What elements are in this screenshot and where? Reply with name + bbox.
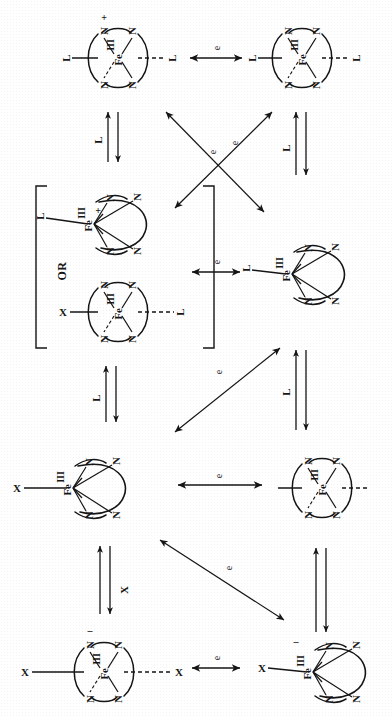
- donor-n: N: [131, 193, 143, 201]
- oxidation-state: III: [55, 471, 66, 483]
- donor-n: N: [98, 281, 110, 289]
- arrow-label-ligand-l: L: [92, 136, 104, 143]
- donor-n: N: [83, 511, 95, 519]
- donor-n: N: [350, 641, 362, 649]
- donor-n: N: [104, 247, 116, 255]
- axial-ligand-l: L: [240, 264, 252, 271]
- arrow-label-electron: e: [211, 260, 222, 264]
- species-s4: [252, 246, 344, 305]
- oxidation-state: III: [105, 293, 116, 305]
- donor-n: N: [310, 27, 322, 35]
- axial-ligand-x: X: [21, 666, 29, 678]
- metal-center: Fe: [112, 54, 124, 65]
- donor-n: N: [83, 458, 95, 466]
- arrow-a2: [108, 112, 118, 162]
- donor-n: N: [302, 511, 314, 519]
- arrow-label-electron: e: [229, 141, 240, 145]
- species-s8: [268, 644, 365, 703]
- oxidation-state: III: [274, 257, 285, 269]
- metal-center: Fe: [82, 220, 94, 231]
- reaction-scheme-figure: [0, 0, 392, 716]
- oxidation-state: III: [105, 39, 116, 51]
- donor-n: N: [104, 194, 116, 202]
- donor-n: N: [112, 641, 124, 649]
- donor-n: N: [84, 641, 96, 649]
- donor-n: N: [282, 27, 294, 35]
- donor-n: N: [302, 457, 314, 465]
- donor-n: N: [112, 695, 124, 703]
- oxidation-state: III: [295, 655, 306, 667]
- arrow-label-electron: e: [213, 474, 224, 478]
- donor-n: N: [98, 27, 110, 35]
- donor-n: N: [350, 695, 362, 703]
- donor-n: N: [329, 297, 341, 305]
- axial-ligand-l: L: [246, 54, 258, 61]
- donor-n: N: [84, 695, 96, 703]
- charge-s8: –: [294, 636, 299, 647]
- donor-n: N: [329, 243, 341, 251]
- donor-n: N: [323, 695, 335, 703]
- axial-ligand-l: L: [166, 54, 178, 61]
- arrow-label-ligand-x: X: [118, 586, 130, 594]
- charge-s7: –: [88, 625, 93, 636]
- metal-center: Fe: [98, 668, 110, 679]
- charge-s3a: +: [95, 205, 101, 216]
- donor-n: N: [330, 511, 342, 519]
- donor-n: N: [302, 244, 314, 252]
- arrow-label-electron: e: [213, 370, 224, 374]
- arrow-label-ligand-l: L: [90, 394, 102, 401]
- arrow-a4: [175, 112, 272, 208]
- donor-n: N: [126, 81, 138, 89]
- arrow-a12: [316, 548, 326, 632]
- donor-n: N: [282, 81, 294, 89]
- arrow-a3: [296, 112, 306, 175]
- metal-center: Fe: [296, 54, 308, 65]
- metal-center: Fe: [316, 484, 328, 495]
- axial-ligand-x: X: [258, 662, 266, 674]
- donor-n: N: [126, 335, 138, 343]
- arrow-a8: [296, 350, 306, 430]
- oxidation-state: III: [309, 469, 320, 481]
- charge-s1: +: [101, 12, 107, 23]
- donor-n: N: [323, 642, 335, 650]
- species-s5: [24, 460, 125, 519]
- axial-ligand-l: L: [34, 212, 46, 219]
- donor-n: N: [126, 27, 138, 35]
- oxidation-state: III: [289, 39, 300, 51]
- arrow-a11: [100, 546, 110, 614]
- donor-n: N: [302, 297, 314, 305]
- donor-n: N: [126, 281, 138, 289]
- axial-ligand-l: L: [174, 308, 186, 315]
- arrow-a5: [166, 112, 264, 212]
- axial-ligand-x: X: [13, 482, 21, 494]
- axial-ligand-x: X: [175, 666, 183, 678]
- donor-n: N: [131, 247, 143, 255]
- oxidation-state: III: [76, 207, 87, 219]
- donor-n: N: [110, 511, 122, 519]
- axial-ligand-l: L: [60, 54, 72, 61]
- arrow-label-ligand-l: L: [280, 388, 292, 395]
- metal-center: Fe: [301, 668, 313, 679]
- arrow-label-electron: e: [223, 566, 234, 570]
- metal-center: Fe: [61, 484, 73, 495]
- arrow-a9: [175, 348, 280, 432]
- donor-n: N: [110, 457, 122, 465]
- arrow-label-electron: e: [207, 150, 218, 154]
- or-label: OR: [55, 262, 70, 281]
- axial-ligand-l: L: [350, 54, 362, 61]
- donor-n: N: [310, 81, 322, 89]
- arrow-label-ligand-l: L: [280, 144, 292, 151]
- donor-n: N: [98, 335, 110, 343]
- donor-n: N: [98, 81, 110, 89]
- axial-ligand-x: X: [59, 306, 67, 318]
- arrow-a13: [160, 540, 284, 620]
- metal-center: Fe: [112, 308, 124, 319]
- donor-n: N: [330, 457, 342, 465]
- arrow-label-electron: e: [211, 656, 222, 660]
- metal-center: Fe: [280, 270, 292, 281]
- arrow-label-electron: e: [211, 46, 222, 50]
- arrow-a7: [106, 366, 116, 422]
- oxidation-state: III: [91, 653, 102, 665]
